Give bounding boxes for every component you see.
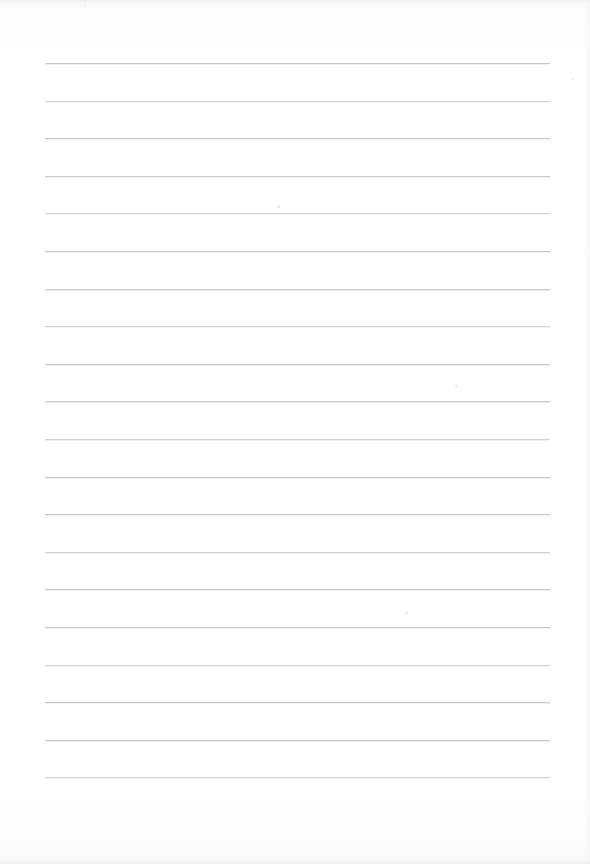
writing-area <box>0 0 590 864</box>
document-page <box>0 0 590 864</box>
